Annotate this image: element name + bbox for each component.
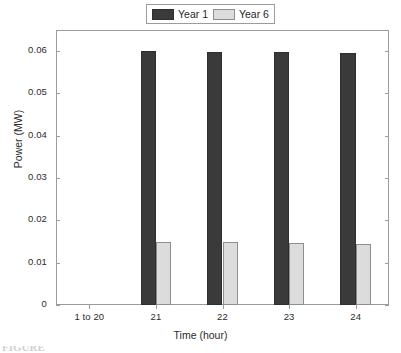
- y-axis-tick-mark-right: [385, 93, 389, 94]
- legend-swatch-icon: [213, 9, 235, 20]
- x-axis-tick-mark: [89, 305, 90, 309]
- y-axis-tick-mark: [56, 220, 60, 221]
- bar-year-6-21: [156, 242, 171, 305]
- legend-label: Year 1: [178, 8, 208, 20]
- x-axis-label: Time (hour): [0, 329, 401, 341]
- bar-year-6-22: [223, 242, 238, 305]
- bar-year-1-22: [207, 52, 222, 305]
- bar-year-1-21: [141, 51, 156, 305]
- x-axis-tick-mark: [156, 305, 157, 309]
- x-axis-tick-label: 23: [284, 311, 295, 322]
- y-axis-tick-mark-right: [385, 220, 389, 221]
- x-axis-tick-mark: [223, 305, 224, 309]
- legend-entry-year-1[interactable]: Year 1: [152, 8, 208, 20]
- legend-entry-year-6[interactable]: Year 6: [213, 8, 269, 20]
- y-axis-tick-mark: [56, 263, 60, 264]
- y-axis-tick-mark-right: [385, 263, 389, 264]
- bar-year-6-24: [356, 244, 371, 305]
- y-axis-tick-mark: [56, 93, 60, 94]
- y-axis-tick-mark-right: [385, 51, 389, 52]
- y-axis-tick-label: 0.03: [28, 171, 47, 182]
- chart-legend[interactable]: Year 1Year 6: [146, 4, 275, 24]
- figure-bar-chart: Power (MW) 00.010.020.030.040.050.06 1 t…: [0, 0, 401, 353]
- bar-year-6-23: [289, 243, 304, 305]
- y-axis-tick-mark: [56, 51, 60, 52]
- caption-strip: FIGURE: [0, 346, 401, 353]
- y-axis-tick-label: 0.01: [28, 256, 47, 267]
- x-axis-tick-mark: [289, 305, 290, 309]
- y-axis-tick-mark-right: [385, 136, 389, 137]
- y-axis-tick-mark-right: [385, 178, 389, 179]
- y-axis-label: Power (MW): [12, 79, 24, 199]
- y-axis-tick-label: 0.02: [28, 213, 47, 224]
- x-axis-tick-label: 24: [350, 311, 361, 322]
- y-axis-tick-mark-right: [385, 305, 389, 306]
- legend-swatch-icon: [152, 9, 174, 20]
- bar-year-1-23: [274, 52, 289, 305]
- x-axis-tick-label: 1 to 20: [74, 311, 104, 322]
- y-axis-tick-mark: [56, 178, 60, 179]
- y-axis-tick-label: 0.06: [28, 44, 47, 55]
- y-axis-tick-label: 0.04: [28, 129, 47, 140]
- y-axis-tick-label: 0: [42, 298, 47, 309]
- bar-year-1-24: [340, 53, 355, 305]
- x-axis-tick-label: 22: [217, 311, 228, 322]
- x-axis-tick-mark: [356, 305, 357, 309]
- caption-text: FIGURE: [2, 346, 45, 353]
- y-axis-tick-mark: [56, 136, 60, 137]
- y-axis-tick-mark: [56, 305, 60, 306]
- legend-label: Year 6: [239, 8, 269, 20]
- y-axis-tick-label: 0.05: [28, 86, 47, 97]
- x-axis-tick-label: 21: [151, 311, 162, 322]
